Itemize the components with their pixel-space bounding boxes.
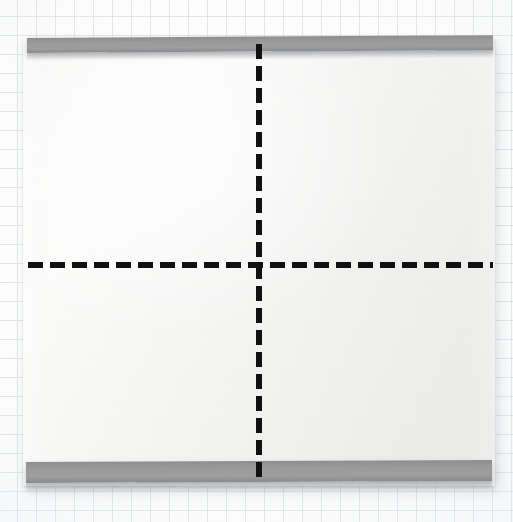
vertical-fold-line xyxy=(256,44,262,481)
paper-photo-scene xyxy=(0,0,513,522)
